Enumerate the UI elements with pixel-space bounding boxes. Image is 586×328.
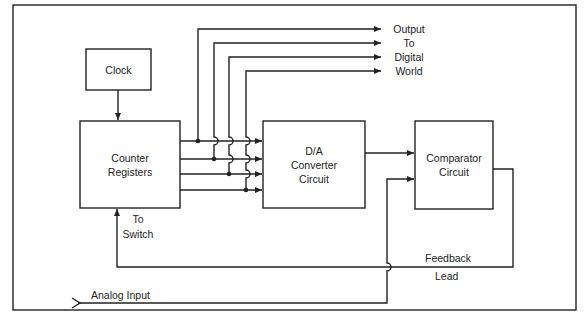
feedback-label: Feedback [425,251,471,265]
dac-line1: D/A [305,144,323,158]
to-switch-label-2: Switch [121,227,155,241]
output-label-3: Digital [388,50,430,64]
lead-label: Lead [435,269,458,283]
comparator-line1: Comparator [426,151,481,165]
to-switch-label-1: To [121,212,155,226]
output-label-4: World [388,64,430,78]
clock-text: Clock [105,63,131,77]
dac-line2: Converter [291,158,337,172]
output-label-1: Output [388,22,430,36]
comparator-line2: Circuit [439,165,469,179]
counter-line2: Registers [108,165,152,179]
output-label-2: To [388,36,430,50]
dac-label: D/A Converter Circuit [263,121,365,208]
comparator-label: Comparator Circuit [415,121,493,209]
counter-line1: Counter [111,151,148,165]
dac-line3: Circuit [299,172,329,186]
counter-registers-label: Counter Registers [80,121,180,208]
clock-label: Clock [86,49,151,90]
analog-input-label: Analog Input [91,288,150,302]
